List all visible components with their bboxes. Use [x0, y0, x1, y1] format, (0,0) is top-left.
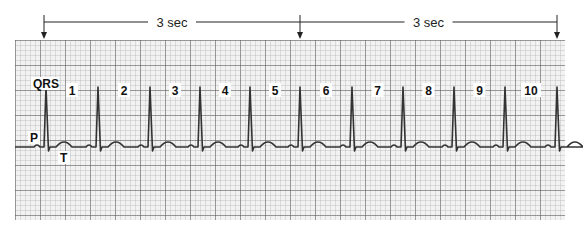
beat-number: 5	[272, 84, 279, 98]
interval-label: 3 sec	[413, 15, 445, 30]
ecg-grid	[15, 40, 565, 220]
qrs-label: QRS	[33, 77, 59, 91]
beat-number: 2	[121, 84, 128, 98]
t-wave-label: T	[60, 151, 68, 165]
beat-number: 6	[323, 84, 330, 98]
ecg-rhythm-strip: 3 sec3 sec QRSPT 12345678910	[0, 0, 583, 229]
beat-number: 1	[69, 84, 76, 98]
time-scale: 3 sec3 sec	[41, 15, 560, 39]
beat-number: 8	[425, 84, 432, 98]
beat-number: 4	[222, 84, 229, 98]
beat-number: 9	[476, 84, 483, 98]
p-wave-label: P	[30, 131, 38, 145]
beat-number: 7	[374, 84, 381, 98]
interval-label: 3 sec	[156, 15, 188, 30]
beat-number: 3	[172, 84, 179, 98]
beat-number: 10	[524, 84, 538, 98]
